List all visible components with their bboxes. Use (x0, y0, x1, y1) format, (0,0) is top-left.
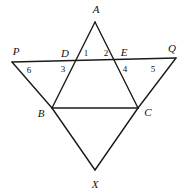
vertex-label-A: A (93, 4, 100, 15)
vertex-label-X: X (92, 179, 99, 190)
vertex-label-P: P (13, 46, 20, 57)
line-P-to-B (12, 62, 52, 108)
line-Q-to-C (138, 58, 176, 108)
line-A-to-C (95, 22, 138, 108)
angle-label-6: 6 (27, 66, 32, 75)
vertex-label-D: D (61, 48, 69, 59)
line-B-to-X (52, 108, 95, 170)
geometry-canvas (0, 0, 188, 194)
vertex-label-B: B (38, 108, 45, 119)
line-PQ (12, 58, 176, 62)
vertex-label-Q: Q (168, 43, 176, 54)
angle-label-4: 4 (123, 65, 128, 74)
line-A-to-B (52, 22, 95, 108)
line-C-to-X (95, 108, 138, 170)
geometry-figure: A P D E Q B C X 1 2 3 4 5 6 (0, 0, 188, 194)
angle-label-1: 1 (84, 49, 89, 58)
angle-label-5: 5 (151, 65, 156, 74)
vertex-label-E: E (121, 47, 128, 58)
angle-label-2: 2 (104, 49, 109, 58)
vertex-label-C: C (144, 107, 151, 118)
angle-label-3: 3 (61, 65, 66, 74)
